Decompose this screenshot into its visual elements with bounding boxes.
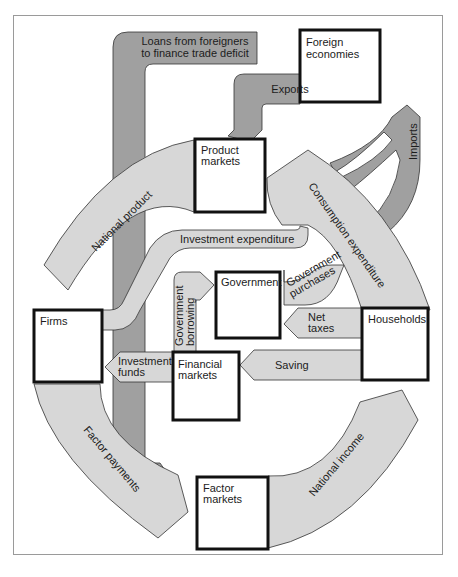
label-foreign-2: economies: [306, 48, 360, 60]
label-loans-1: Loans from foreigners: [142, 35, 249, 47]
label-factor-2: markets: [203, 493, 243, 505]
label-gov-borrowing-2: borrowing: [184, 298, 196, 346]
circular-flow-diagram: Foreign economies Product markets Govern…: [0, 0, 458, 577]
label-investment-funds-2: funds: [118, 366, 145, 378]
label-investment-expenditure: Investment expenditure: [180, 233, 294, 245]
label-government: Government: [221, 276, 282, 288]
label-exports: Exports: [271, 83, 309, 95]
label-product-2: markets: [201, 155, 241, 167]
label-foreign-1: Foreign: [306, 36, 343, 48]
flow-national-income: [268, 390, 418, 548]
label-financial-2: markets: [178, 369, 218, 381]
label-net-taxes-2: taxes: [308, 322, 335, 334]
label-saving: Saving: [275, 359, 309, 371]
label-loans-2: to finance trade deficit: [141, 47, 249, 59]
label-households: Households: [368, 313, 427, 325]
label-imports: Imports: [407, 123, 419, 160]
label-firms: Firms: [40, 315, 68, 327]
